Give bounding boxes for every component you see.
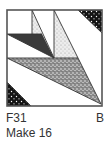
block-code: F31	[6, 111, 27, 125]
quilt-block-diagram	[0, 0, 109, 110]
block-label: B	[96, 111, 104, 125]
quantity-text: Make 16	[6, 126, 104, 140]
caption-row: F31 B	[6, 111, 104, 125]
